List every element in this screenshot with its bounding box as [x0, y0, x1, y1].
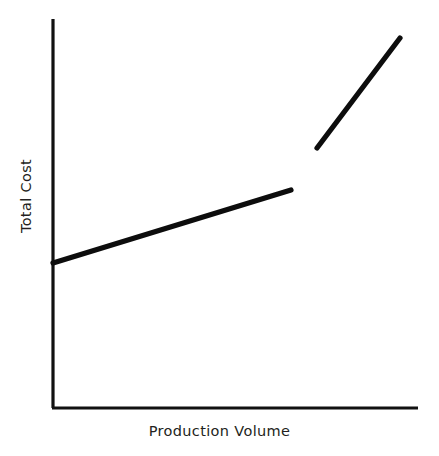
y-axis-label: Total Cost — [0, 0, 52, 456]
y-axis-label-text: Total Cost — [18, 159, 34, 233]
chart-figure: Total Cost Production Volume — [0, 0, 439, 456]
cost-line-segment-1 — [53, 190, 291, 263]
x-axis-label: Production Volume — [0, 423, 439, 439]
cost-line-segment-2 — [317, 38, 400, 148]
plot-canvas — [0, 0, 439, 456]
